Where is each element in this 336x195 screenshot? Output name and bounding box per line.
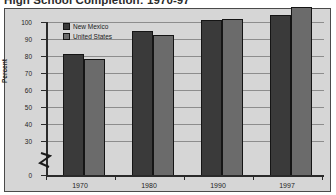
- y-tick-90: [41, 39, 47, 40]
- axis-break-icon: [38, 152, 52, 170]
- plot-area: [47, 22, 324, 176]
- x-label-1997: 1997: [267, 182, 307, 190]
- x-label-1970: 1970: [60, 182, 100, 190]
- y-label-80: 80: [6, 53, 32, 60]
- y-axis-title: Percent: [1, 59, 8, 83]
- bar-united-states-1990: [222, 19, 243, 176]
- x-tick-1: [115, 175, 116, 180]
- y-label-40: 40: [6, 121, 32, 128]
- chart-frame: 100 90 80 70 60 50 40 30 0 1970 1980 199…: [4, 8, 331, 192]
- x-label-1990: 1990: [198, 182, 238, 190]
- x-tick-start: [46, 175, 47, 180]
- y-tick-70: [41, 73, 47, 74]
- y-label-30: 30: [6, 138, 32, 145]
- x-label-1980: 1980: [129, 182, 169, 190]
- bar-new-mexico-1990: [201, 20, 222, 176]
- chart-page: High School Completion: 1970-97: [0, 0, 336, 195]
- bar-united-states-1980: [153, 35, 174, 176]
- bar-united-states-1970: [84, 59, 105, 176]
- y-tick-40: [41, 124, 47, 125]
- page-title: High School Completion: 1970-97: [4, 0, 190, 6]
- bar-new-mexico-1970: [63, 54, 84, 176]
- bar-new-mexico-1980: [132, 31, 153, 176]
- y-tick-60: [41, 90, 47, 91]
- legend-swatch-icon-new-mexico: [63, 23, 70, 30]
- y-tick-30: [41, 141, 47, 142]
- y-label-60: 60: [6, 87, 32, 94]
- legend-label-new-mexico: New Mexico: [73, 23, 108, 31]
- legend-label-united-states: United States: [73, 33, 112, 41]
- legend-swatch-icon-united-states: [63, 33, 70, 40]
- bar-united-states-1997: [291, 7, 312, 176]
- x-tick-end: [322, 175, 323, 180]
- legend: New Mexico United States: [63, 22, 112, 42]
- y-label-90: 90: [6, 36, 32, 43]
- x-tick-2: [184, 175, 185, 180]
- legend-item-new-mexico: New Mexico: [63, 22, 112, 31]
- y-label-50: 50: [6, 104, 32, 111]
- bar-new-mexico-1997: [270, 15, 291, 176]
- y-tick-100: [41, 22, 47, 23]
- y-tick-50: [41, 107, 47, 108]
- y-tick-80: [41, 56, 47, 57]
- y-label-70: 70: [6, 70, 32, 77]
- y-label-100: 100: [6, 19, 32, 26]
- y-label-0: 0: [6, 172, 32, 179]
- x-tick-3: [253, 175, 254, 180]
- x-axis-line: [46, 175, 324, 177]
- legend-item-united-states: United States: [63, 32, 112, 41]
